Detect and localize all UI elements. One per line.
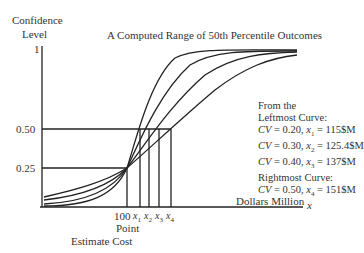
y-axis-label-line1: Confidence (12, 15, 63, 26)
chart-title: A Computed Range of 50th Percentile Outc… (107, 30, 322, 41)
xtick-x4: x4 (166, 211, 174, 224)
ann-line-4: CV = 0.50, x4 = 151$M (258, 184, 364, 200)
ann-line-3: CV = 0.40, x3 = 137$M (258, 156, 364, 172)
annotation-block: From the Leftmost Curve: CV = 0.20, x1 =… (258, 100, 364, 200)
ytick-025: 0.25 (16, 163, 35, 174)
point-label: Point (116, 223, 139, 234)
estimate-cost-label: Estimate Cost (71, 236, 132, 247)
ann-from: From the (258, 100, 364, 112)
ytick-050: 0.50 (16, 124, 35, 135)
ann-rightmost: Rightmost Curve: (258, 172, 364, 184)
ann-line-2: CV = 0.30, x2 = 125.4$M (258, 140, 364, 156)
ann-line-1: CV = 0.20, x1 = 115$M (258, 124, 364, 140)
ann-leftmost: Leftmost Curve: (258, 112, 364, 124)
xtick-x3: x3 (155, 211, 163, 224)
xtick-100: 100 (114, 211, 131, 222)
x-axis-symbol: x (307, 200, 312, 211)
ytick-1: 1 (34, 44, 40, 55)
y-axis-label-line2: Level (22, 29, 47, 40)
xtick-x2: x2 (144, 211, 152, 224)
